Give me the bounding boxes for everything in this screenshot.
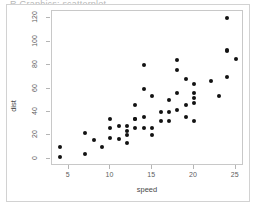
x-axis-tick-label: 15 [138,171,164,179]
data-point [108,126,112,130]
data-point [117,137,121,141]
data-point [100,145,104,149]
data-point [234,57,238,61]
data-point [83,131,87,135]
y-axis-tick-label: 40 [26,105,44,117]
y-axis-tick-label: 20 [26,128,44,140]
y-axis-tick [46,134,50,135]
data-point [142,63,146,67]
y-axis-tick [46,41,50,42]
data-point [167,98,171,102]
data-point [184,103,188,107]
data-point [192,82,196,86]
data-point [184,115,188,119]
data-point [133,103,137,107]
data-point [192,91,196,95]
data-point [142,115,146,119]
x-axis-tick [68,165,69,169]
data-point [58,145,62,149]
x-axis-tick [235,165,236,169]
data-point [225,16,229,20]
data-point [58,155,62,159]
x-axis-tick-label: 10 [96,171,122,179]
data-point [175,58,179,62]
data-point [125,129,129,133]
data-point [117,124,121,128]
data-point [125,133,129,137]
x-axis-tick-label: 25 [222,171,248,179]
y-axis-tick-label: 60 [26,82,44,94]
data-point [192,119,196,123]
y-axis-tick [46,17,50,18]
y-axis-tick-label: 100 [26,35,44,47]
data-point [167,110,171,114]
x-axis-tick-label: 5 [55,171,81,179]
data-point [175,108,179,112]
data-point [133,117,137,121]
data-point [133,126,137,130]
data-point [108,117,112,121]
data-point [142,126,146,130]
data-point [83,152,87,156]
y-axis-title: dist [9,100,18,112]
data-point [125,141,129,145]
figure-root: R Graphics: scatterplot dist speed 02040… [0,0,258,212]
x-axis-tick-label: 20 [180,171,206,179]
data-point [159,110,163,114]
y-axis-tick-label: 80 [26,58,44,70]
data-point [167,119,171,123]
data-point [142,87,146,91]
y-axis-tick-label: 0 [26,152,44,164]
data-point [150,94,154,98]
y-axis-tick [46,64,50,65]
plot-panel [51,10,243,165]
data-point [150,126,154,130]
y-axis-tick [46,88,50,89]
y-axis-tick [46,158,50,159]
data-point [192,96,196,100]
data-point [175,91,179,95]
data-point [92,138,96,142]
data-point [159,119,163,123]
x-axis-tick [151,165,152,169]
data-point [175,68,179,72]
data-point [150,133,154,137]
y-axis-tick-label: 120 [26,11,44,23]
x-axis-tick [109,165,110,169]
data-point [225,75,229,79]
x-axis-tick [193,165,194,169]
data-point [209,79,213,83]
y-axis-tick [46,111,50,112]
data-point [184,77,188,81]
data-point [125,124,129,128]
data-point [192,101,196,105]
x-axis-title: speed [51,185,243,194]
data-point [217,94,221,98]
data-point [108,136,112,140]
